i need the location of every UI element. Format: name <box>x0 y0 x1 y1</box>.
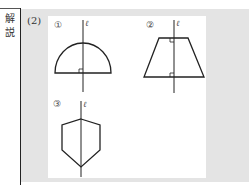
figure-1: ① ℓ <box>54 19 111 92</box>
figure-1-label: ① <box>54 20 62 30</box>
figure-2: ② ℓ <box>144 19 204 93</box>
figure-2-axis-label: ℓ <box>176 19 180 28</box>
figure-3: ③ ℓ <box>53 99 100 177</box>
figure-3-axis-label: ℓ <box>83 100 87 109</box>
figure-2-label: ② <box>146 20 154 30</box>
figures-canvas: ① ℓ ② ℓ ③ ℓ <box>0 0 249 185</box>
figure-3-label: ③ <box>53 99 61 109</box>
figure-1-axis-label: ℓ <box>85 19 89 28</box>
